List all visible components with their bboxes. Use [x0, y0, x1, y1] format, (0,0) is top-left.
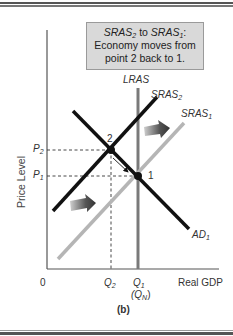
ad1-label: AD1	[192, 229, 210, 240]
sras1-curve	[58, 123, 184, 259]
qn-label: (QN)	[131, 289, 151, 300]
bottom-rule-inner	[0, 330, 233, 331]
lras-label: LRAS	[123, 74, 149, 85]
sras2-label: SRAS2	[151, 89, 182, 100]
y-axis-label: Price Level	[15, 156, 27, 208]
point-2	[107, 146, 115, 154]
x-axis-label: Real GDP	[178, 277, 223, 288]
q1-label: Q1	[133, 277, 145, 288]
shift-arrow-upper	[144, 120, 170, 138]
point-1-label: 1	[148, 170, 154, 181]
q2-label: Q2	[104, 277, 116, 288]
point-1	[134, 172, 142, 180]
sras2-curve	[53, 97, 157, 211]
shift-arrow-lower	[70, 194, 96, 212]
point-2-label: 2	[107, 133, 113, 144]
figure-caption: (b)	[117, 304, 130, 315]
origin-label: 0	[40, 277, 46, 288]
bottom-rule	[0, 332, 233, 335]
p2-label: P2	[33, 143, 44, 154]
p1-label: P1	[33, 169, 44, 180]
sras1-label: SRAS1	[181, 108, 212, 119]
